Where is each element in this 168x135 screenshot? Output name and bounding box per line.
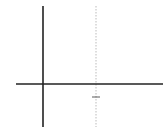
tan-graph	[0, 0, 168, 135]
